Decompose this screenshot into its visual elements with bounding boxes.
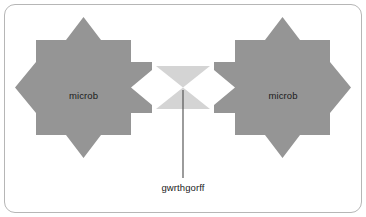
microbe-right-label: microb [200,90,366,101]
microbe-left-label: microb [0,90,167,101]
microbe-left-shape [15,17,152,158]
figure-card: microb microb gwrthgorff [0,0,366,217]
antibody-caption: gwrthgorff [0,182,366,193]
microbe-right-shape [214,17,351,158]
